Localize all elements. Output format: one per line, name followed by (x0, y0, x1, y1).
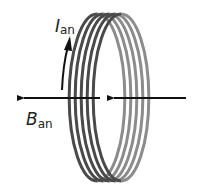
current-label: Ian (55, 16, 75, 37)
solenoid-diagram: Ian Ban (0, 0, 211, 190)
current-arrowhead-icon (64, 36, 72, 51)
field-label: Ban (26, 109, 53, 131)
induced-current-arrow (62, 46, 68, 90)
